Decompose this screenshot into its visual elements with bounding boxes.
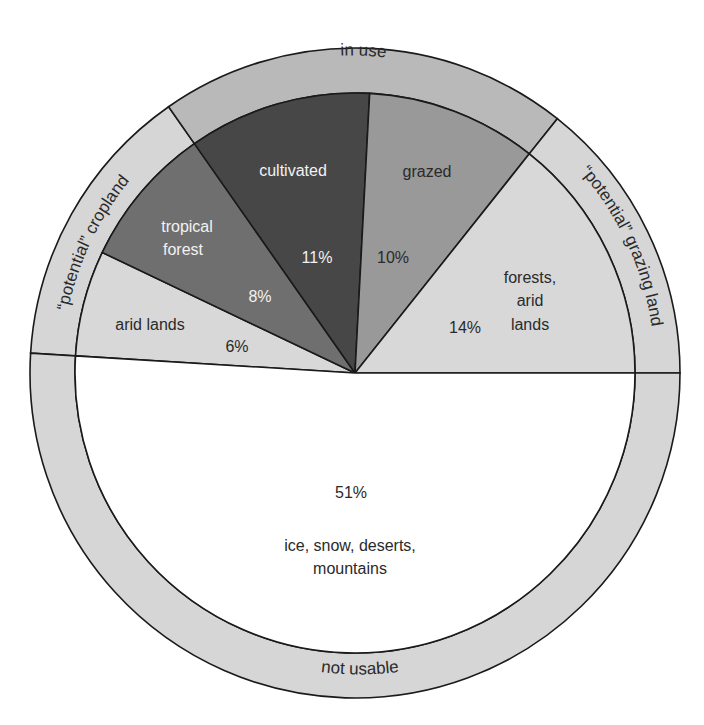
ring-label-in-use: in use — [340, 40, 387, 61]
slice-value-tropical-forest: 8% — [248, 288, 271, 305]
ring-label-not-usable: not usable — [320, 657, 399, 678]
slice-label-cultivated: cultivated — [259, 162, 327, 179]
land-use-pie-chart: in use “potential” cropland “potential” … — [0, 0, 704, 725]
slice-label-forests-3: lands — [511, 316, 549, 333]
slice-label-tropical-forest-2: forest — [163, 241, 204, 258]
slice-label-forests-1: forests, — [504, 269, 556, 286]
slice-label-grazed: grazed — [403, 163, 452, 180]
slice-value-unusable: 51% — [335, 484, 367, 501]
slice-value-grazed: 10% — [377, 249, 409, 266]
slice-label-tropical-forest-1: tropical — [161, 218, 213, 235]
slice-label-unusable-1: ice, snow, deserts, — [284, 537, 416, 554]
slice-label-forests-2: arid — [517, 292, 544, 309]
slice-value-arid-lands: 6% — [225, 338, 248, 355]
slice-value-cultivated: 11% — [302, 249, 333, 266]
slice-label-arid-lands: arid lands — [115, 316, 184, 333]
slice-value-forests: 14% — [449, 319, 481, 336]
slice-label-unusable-2: mountains — [313, 560, 387, 577]
